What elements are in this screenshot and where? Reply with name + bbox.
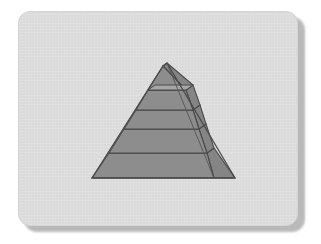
pyramid-tier-5-front-face (92, 153, 214, 178)
slide-canvas (0, 0, 321, 244)
pyramid-diagram[interactable] (0, 0, 321, 244)
pyramid-tier-4-front-face (109, 129, 207, 153)
pyramid-tier-1[interactable] (148, 63, 193, 90)
pyramid-tier-1-top-ledge (148, 85, 193, 90)
